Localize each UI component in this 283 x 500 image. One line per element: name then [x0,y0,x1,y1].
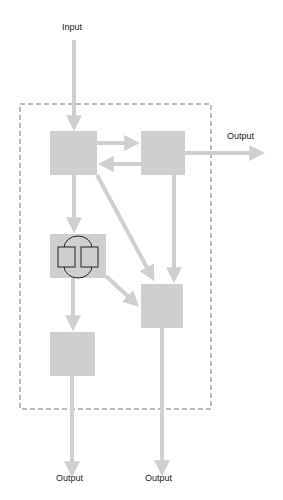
node-e [50,332,95,376]
output-right-label: Output [227,131,254,141]
node-b [141,131,185,175]
output-bottom-right-label: Output [145,473,172,483]
node-d [141,284,183,328]
diagram-canvas [0,0,283,500]
arrow-c-to-d [106,276,134,302]
node-a [50,131,97,175]
input-label: Input [62,22,82,32]
output-bottom-left-label: Output [56,473,83,483]
